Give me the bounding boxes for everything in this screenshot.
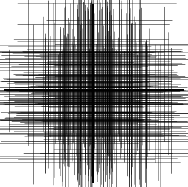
grid-pattern-image bbox=[0, 0, 188, 187]
